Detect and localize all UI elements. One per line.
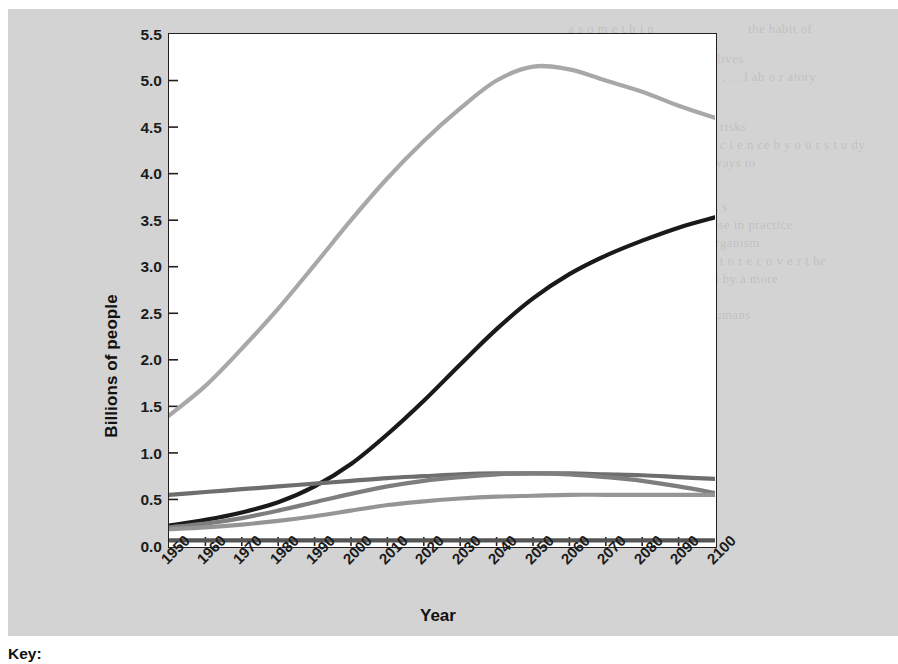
x-tick-label: 2040 — [485, 532, 519, 566]
x-tick-label: 2060 — [558, 532, 592, 566]
x-tick-label: 2020 — [412, 532, 446, 566]
x-tick-label: 2070 — [594, 532, 628, 566]
x-tick-label: 2100 — [704, 532, 738, 566]
x-tick-label: 1980 — [267, 532, 301, 566]
x-tick-label: 2050 — [522, 532, 556, 566]
x-tick-label: 2000 — [340, 532, 374, 566]
figure-root: the habit of a s o m e t h i n a high po… — [0, 0, 898, 664]
key-label: Key: — [8, 645, 42, 663]
x-tick-label: 2030 — [449, 532, 483, 566]
x-tick-label: 2010 — [376, 532, 410, 566]
x-tick-label: 2090 — [667, 532, 701, 566]
x-axis-tick-labels: 1950196019701980199020002010202020302040… — [0, 0, 898, 664]
x-tick-label: 1950 — [158, 532, 192, 566]
x-axis-label: Year — [420, 606, 456, 626]
x-tick-label: 1970 — [230, 532, 264, 566]
x-tick-label: 1990 — [303, 532, 337, 566]
x-tick-label: 1960 — [194, 532, 228, 566]
x-tick-label: 2080 — [631, 532, 665, 566]
